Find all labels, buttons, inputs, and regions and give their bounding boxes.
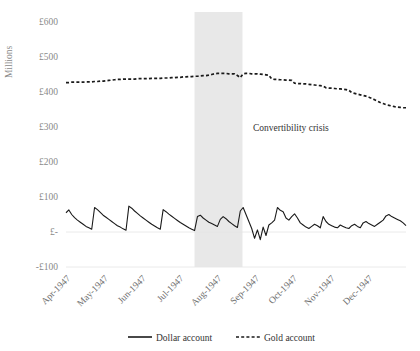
y-tick-label-0: £600: [39, 17, 58, 27]
annotation-label-0: Convertibility crisis: [253, 123, 329, 133]
y-tick-label-2: £400: [39, 87, 58, 97]
y-tick-label-3: £300: [39, 122, 58, 132]
shaded-band-0: [195, 12, 243, 267]
y-tick-label-7: -£100: [36, 262, 58, 272]
y-tick-label-1: £500: [39, 52, 58, 62]
y-tick-label-6: £-: [50, 227, 58, 237]
legend-label-dollar-account: Dollar account: [156, 333, 213, 343]
annotation-group: Convertibility crisis: [253, 123, 329, 133]
y-axis-title: Millions: [4, 46, 14, 79]
y-tick-label-5: £100: [39, 192, 58, 202]
legend-label-gold-account: Gold account: [264, 333, 315, 343]
chart-container: £600£500£400£300£200£100£--£100 Apr-1947…: [0, 0, 420, 351]
shaded-band-group: [195, 12, 243, 267]
y-tick-label-4: £200: [39, 157, 58, 167]
convertibility-crisis-line-chart: £600£500£400£300£200£100£--£100 Apr-1947…: [0, 0, 420, 351]
